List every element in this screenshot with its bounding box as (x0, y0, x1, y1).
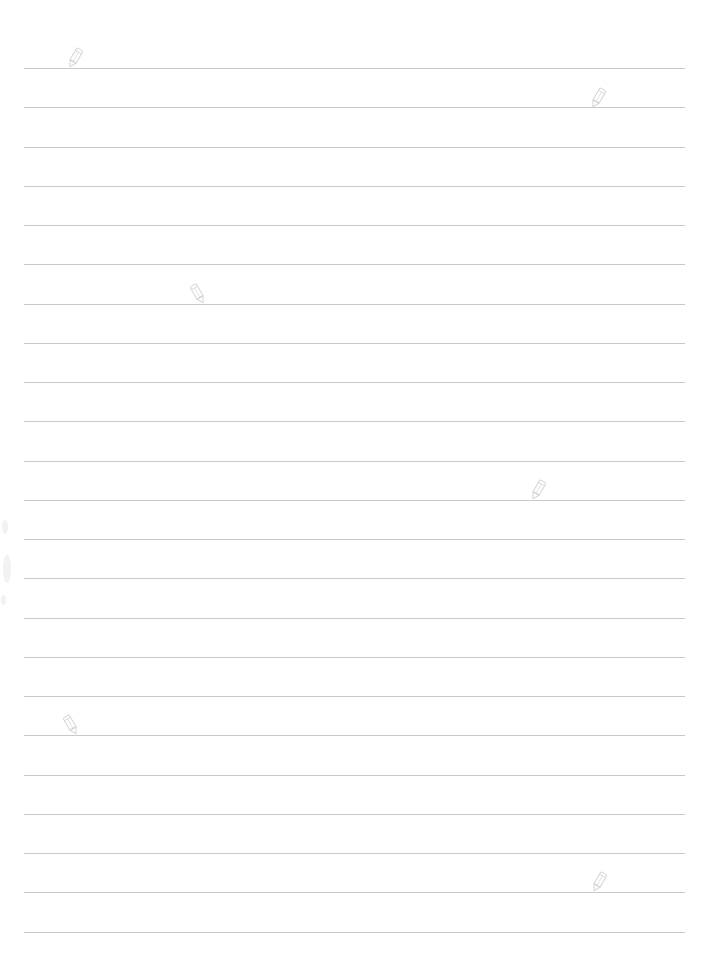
pencil-icon (593, 87, 603, 109)
ruled-line (24, 382, 685, 383)
ruled-line (24, 500, 685, 501)
pencil-icon (533, 479, 543, 501)
ruled-line (24, 775, 685, 776)
scan-smudge (3, 555, 11, 583)
ruled-line (24, 461, 685, 462)
ruled-line (24, 892, 685, 893)
ruled-line (24, 735, 685, 736)
ruled-line (24, 421, 685, 422)
ruled-line (24, 932, 685, 933)
ruled-line (24, 814, 685, 815)
ruled-line (24, 343, 685, 344)
ruled-line (24, 539, 685, 540)
pencil-icon (193, 283, 203, 305)
ruled-line (24, 107, 685, 108)
ruled-line (24, 696, 685, 697)
ruled-line (24, 578, 685, 579)
ruled-line (24, 657, 685, 658)
pencil-icon (594, 871, 604, 893)
ruled-line (24, 264, 685, 265)
ruled-line (24, 68, 685, 69)
ruled-line (24, 618, 685, 619)
ruled-line (24, 304, 685, 305)
ruled-line (24, 225, 685, 226)
pencil-icon (70, 47, 80, 69)
pencil-icon (66, 714, 76, 736)
ruled-line (24, 853, 685, 854)
ruled-line (24, 186, 685, 187)
ruled-line (24, 147, 685, 148)
scan-smudge (2, 520, 8, 534)
scan-smudge (1, 595, 6, 605)
lined-paper-page (0, 0, 712, 972)
